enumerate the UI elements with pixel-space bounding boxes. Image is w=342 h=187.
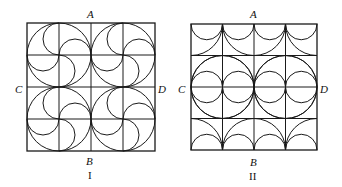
figure-1-label-b: B [86,156,93,167]
figure-2-label-a: A [250,9,257,20]
pinwheel-arc [123,55,139,87]
edge-semicircle [223,134,255,150]
pinwheel-arc [59,39,91,55]
diagram-canvas [0,0,342,187]
pinwheel-arc [43,23,59,55]
pinwheel-arc [123,119,139,151]
edge-semicircle [286,134,318,150]
pinwheel-arc [91,119,123,135]
pinwheel-arc [27,119,59,135]
figure-2-label-b: B [250,157,257,168]
edge-semicircle [191,24,223,40]
pinwheel-arc [27,55,59,71]
edge-semicircle [254,24,286,40]
edge-semicircle [191,134,223,150]
figure-2-label-d: D [320,84,328,95]
figure-1-label-a: A [87,9,94,20]
pinwheel-arc [59,119,75,151]
figure-2-label-c: C [178,84,185,95]
edge-semicircle [254,134,286,150]
pinwheel-arc [107,23,123,55]
edge-semicircle [286,24,318,40]
pinwheel-arc [59,55,75,87]
pinwheel-arc [59,103,91,119]
figure-1-label-d: D [158,84,166,95]
figure-1-label-c: C [15,84,22,95]
pinwheel-arc [43,87,59,119]
edge-semicircle [223,24,255,40]
pinwheel-arc [123,39,155,55]
pinwheel-arc [107,87,123,119]
figure-2-caption: II [249,171,256,182]
pinwheel-arc [123,103,155,119]
pinwheel-arc [91,55,123,71]
figure-1-caption: I [88,170,92,181]
